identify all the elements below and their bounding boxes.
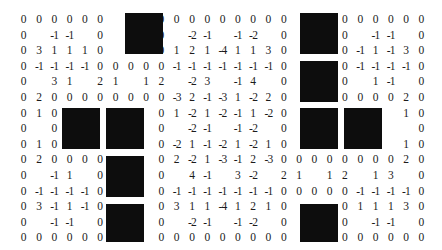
- matrix-cell-empty: [108, 28, 123, 44]
- matrix-cell: -1: [200, 215, 215, 231]
- matrix-cell: -1: [398, 184, 413, 200]
- matrix-cell: 1: [368, 199, 383, 215]
- matrix-cell: -1: [230, 59, 245, 75]
- matrix-cell: -1: [200, 168, 215, 184]
- matrix-cell: 0: [154, 90, 169, 106]
- matrix-cell: -1: [31, 59, 46, 75]
- matrix-cell: 1: [62, 74, 77, 90]
- matrix-cell: 0: [276, 199, 291, 215]
- matrix-cell-empty: [261, 74, 276, 90]
- matrix-cell: 0: [184, 12, 199, 28]
- matrix-cell: 1: [200, 152, 215, 168]
- matrix-cell: -4: [215, 199, 230, 215]
- matrix-cell: 2: [398, 90, 413, 106]
- matrix-cell-empty: [108, 43, 123, 59]
- matrix-cell: -1: [77, 184, 92, 200]
- matrix-cell: 0: [414, 168, 429, 184]
- matrix-cell: 1: [291, 168, 306, 184]
- matrix-cell: 2: [398, 152, 413, 168]
- matrix-cell: 2: [337, 168, 352, 184]
- matrix-cell: 0: [337, 199, 352, 215]
- block-right-a: [300, 108, 338, 149]
- matrix-cell: 0: [276, 74, 291, 90]
- matrix-cell: 0: [16, 74, 31, 90]
- matrix-cell: 0: [276, 28, 291, 44]
- matrix-cell-empty: [31, 215, 46, 231]
- matrix-cell: 0: [353, 12, 368, 28]
- matrix-cell: -1: [261, 184, 276, 200]
- matrix-cell: -1: [77, 199, 92, 215]
- matrix-cell: -1: [215, 59, 230, 75]
- matrix-cell: 0: [276, 184, 291, 200]
- matrix-cell: -1: [184, 184, 199, 200]
- matrix-cell: 2: [245, 199, 260, 215]
- matrix-cell: 0: [353, 152, 368, 168]
- block-top-left-mid: [125, 13, 163, 54]
- matrix-cell: 1: [230, 137, 245, 153]
- matrix-cell: 0: [138, 59, 153, 75]
- matrix-cell: 1: [31, 137, 46, 153]
- matrix-cell: 0: [77, 230, 92, 246]
- matrix-cell: -2: [184, 28, 199, 44]
- matrix-cell: -2: [169, 137, 184, 153]
- matrix-cell: 0: [291, 152, 306, 168]
- matrix-cell: 0: [16, 152, 31, 168]
- matrix-cell: 0: [353, 230, 368, 246]
- matrix-cell: 0: [414, 121, 429, 137]
- matrix-cell: 0: [92, 12, 107, 28]
- matrix-cell: -1: [230, 152, 245, 168]
- matrix-cell: 3: [383, 168, 398, 184]
- matrix-cell: 1: [261, 137, 276, 153]
- matrix-cell: -2: [245, 28, 260, 44]
- matrix-cell: 3: [47, 74, 62, 90]
- matrix-cell: 0: [276, 106, 291, 122]
- matrix-cell: -1: [31, 184, 46, 200]
- matrix-cell: 0: [62, 230, 77, 246]
- matrix-cell: 0: [62, 90, 77, 106]
- matrix-cell: 0: [92, 43, 107, 59]
- matrix-cell-empty: [77, 74, 92, 90]
- matrix-cell: -1: [353, 184, 368, 200]
- matrix-cell: 0: [414, 184, 429, 200]
- matrix-cell: 0: [200, 12, 215, 28]
- matrix-cell-empty: [123, 74, 138, 90]
- matrix-cell-empty: [169, 74, 184, 90]
- matrix-cell: -1: [245, 184, 260, 200]
- matrix-cell: 0: [337, 215, 352, 231]
- matrix-cell: 0: [154, 230, 169, 246]
- matrix-cell-empty: [215, 28, 230, 44]
- matrix-cell: 1: [200, 199, 215, 215]
- matrix-cell: 0: [383, 12, 398, 28]
- matrix-cell: 0: [16, 12, 31, 28]
- matrix-cell-empty: [77, 28, 92, 44]
- matrix-cell: 0: [16, 121, 31, 137]
- matrix-cell-empty: [353, 215, 368, 231]
- matrix-cell: 0: [383, 230, 398, 246]
- matrix-cell: -1: [200, 137, 215, 153]
- matrix-cell: -2: [184, 152, 199, 168]
- matrix-cell: -4: [215, 43, 230, 59]
- matrix-cell: 1: [62, 199, 77, 215]
- matrix-cell: 3: [398, 43, 413, 59]
- matrix-cell: -1: [47, 168, 62, 184]
- matrix-cell: 0: [77, 152, 92, 168]
- matrix-cell: -1: [368, 184, 383, 200]
- matrix-cell: -1: [353, 59, 368, 75]
- matrix-cell: 0: [92, 28, 107, 44]
- matrix-cell: -3: [215, 152, 230, 168]
- block-left-bottom: [106, 204, 144, 242]
- matrix-cell: 0: [16, 137, 31, 153]
- matrix-cell-empty: [383, 121, 398, 137]
- matrix-cell: 1: [62, 43, 77, 59]
- matrix-cell: 3: [398, 199, 413, 215]
- matrix-cell: 0: [276, 12, 291, 28]
- matrix-cell: 1: [184, 199, 199, 215]
- matrix-cell: 0: [414, 90, 429, 106]
- matrix-cell-empty: [383, 106, 398, 122]
- matrix-cell: 0: [16, 43, 31, 59]
- matrix-cell-empty: [261, 168, 276, 184]
- matrix-cell: 0: [307, 152, 322, 168]
- matrix-cell: 0: [200, 230, 215, 246]
- matrix-cell: 1: [230, 199, 245, 215]
- matrix-cell: 0: [154, 59, 169, 75]
